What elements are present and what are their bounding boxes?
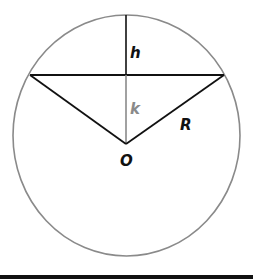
label-O: O <box>120 152 133 170</box>
left-radius-line <box>30 75 126 144</box>
label-h: h <box>130 44 141 62</box>
bottom-border-bar <box>0 275 253 279</box>
label-R: R <box>180 116 192 134</box>
right-radius-line <box>126 75 224 144</box>
circle-diagram: h k R O <box>0 0 253 279</box>
label-k: k <box>130 100 141 118</box>
